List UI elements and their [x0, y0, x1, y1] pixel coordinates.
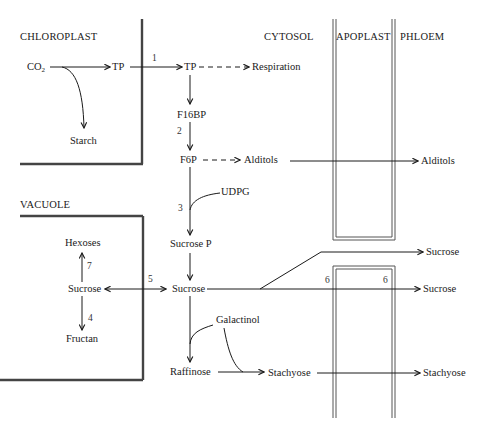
metabolite-sucrose-cytosol: Sucrose [172, 283, 205, 295]
step-number-4: 4 [88, 313, 93, 324]
metabolite-udpg: UDPG [221, 186, 250, 198]
metabolite-tp-chloroplast: TP [112, 61, 124, 73]
apoplast-upper-walls [333, 19, 395, 240]
metabolite-tp-cytosol: TP [184, 61, 196, 73]
metabolite-sucrose-p: Sucrose P [170, 238, 212, 250]
metabolite-f6p: F6P [180, 154, 197, 166]
co2-subscript: 2 [42, 66, 46, 74]
metabolite-f16bp: F16BP [177, 109, 206, 121]
metabolite-fructan: Fructan [66, 333, 98, 345]
arrow-co2-to-starch [62, 67, 84, 128]
region-label-cytosol: CYTOSOL [264, 31, 314, 43]
metabolite-sucrose-vacuole: Sucrose [68, 283, 101, 295]
region-label-vacuole: VACUOLE [20, 199, 70, 211]
metabolite-sucrose-phloem-upper: Sucrose [426, 246, 459, 258]
co2-text: CO [27, 61, 42, 72]
step-number-5: 5 [148, 274, 153, 285]
arrow-sucrose-to-apoplast [260, 252, 423, 289]
region-label-chloroplast: CHLOROPLAST [20, 31, 97, 43]
metabolite-galactinol: Galactinol [216, 314, 260, 326]
metabolite-hexoses: Hexoses [65, 237, 101, 249]
step-number-6-left: 6 [325, 275, 330, 286]
step-number-7: 7 [87, 261, 92, 272]
region-label-apoplast: APOPLAST [336, 31, 391, 43]
metabolite-starch: Starch [70, 135, 97, 147]
galactinol-to-stachyose-curve [224, 328, 243, 372]
step-number-6-right: 6 [383, 275, 388, 286]
metabolite-co2: CO2 [27, 61, 45, 76]
metabolite-alditols-phloem: Alditols [421, 155, 455, 167]
galactinol-to-raffinose-curve [190, 325, 213, 344]
metabolite-sucrose-phloem-lower: Sucrose [423, 283, 456, 295]
step-number-3: 3 [178, 203, 183, 214]
pathway-diagram [0, 0, 480, 431]
metabolite-respiration: Respiration [252, 61, 300, 73]
metabolite-raffinose: Raffinose [170, 366, 211, 378]
metabolite-stachyose-phloem: Stachyose [423, 367, 466, 379]
step-number-2: 2 [177, 126, 182, 137]
region-label-phloem: PHLOEM [400, 31, 444, 43]
metabolite-alditols-cytosol: Alditols [244, 154, 278, 166]
metabolite-stachyose-cytosol: Stachyose [268, 367, 311, 379]
step-number-1: 1 [152, 53, 157, 64]
udpg-input-curve [190, 193, 220, 210]
